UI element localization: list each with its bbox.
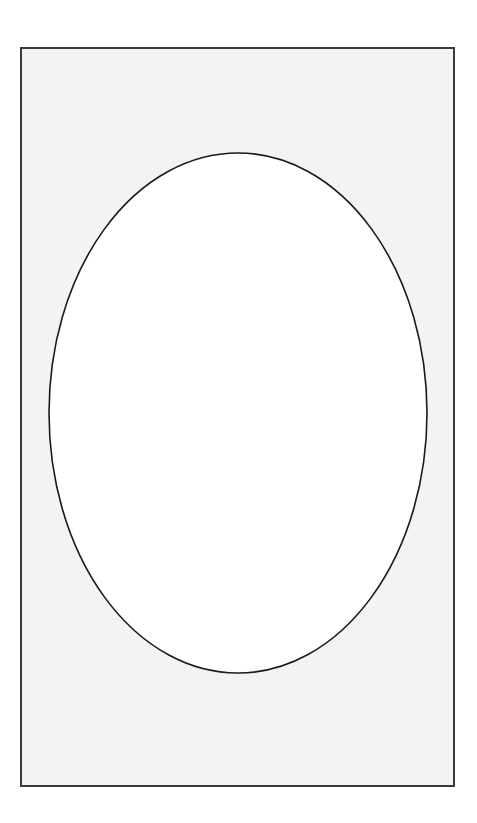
canvas bbox=[0, 0, 477, 823]
oval-shape bbox=[49, 153, 427, 673]
ellipse-layer bbox=[0, 0, 477, 823]
